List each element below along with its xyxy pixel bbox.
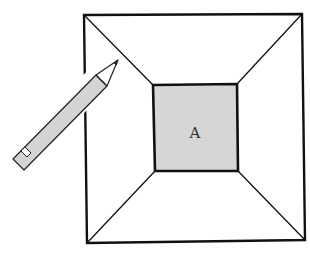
pyramid-frustum-diagram: A — [0, 0, 310, 261]
inner-square-label: A — [189, 124, 201, 142]
